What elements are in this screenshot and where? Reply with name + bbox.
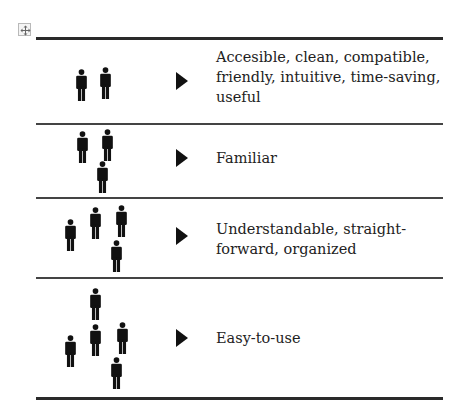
person-icon <box>89 207 102 239</box>
row-label: Easy-to-use <box>216 328 446 348</box>
people-group <box>36 279 176 397</box>
arrow-right-icon <box>176 72 188 90</box>
people-group <box>36 199 176 277</box>
person-icon <box>99 67 112 99</box>
person-icon <box>89 288 102 320</box>
person-icon <box>76 131 89 163</box>
person-icon <box>116 322 129 354</box>
person-icon <box>101 129 114 161</box>
person-icon <box>115 205 128 237</box>
move-arrows-icon <box>20 25 31 36</box>
row-label: Familiar <box>216 148 446 168</box>
person-icon <box>75 69 88 101</box>
people-group <box>36 40 176 123</box>
table-bottom-border <box>36 397 443 400</box>
arrow-right-icon <box>176 227 188 245</box>
table-row: Understandable, straight-forward, organi… <box>36 199 443 277</box>
arrow-right-icon <box>176 149 188 167</box>
person-icon <box>96 161 109 193</box>
table-row: Familiar <box>36 125 443 197</box>
person-icon <box>89 324 102 356</box>
person-icon <box>110 240 123 272</box>
table-move-handle[interactable] <box>18 23 31 36</box>
person-icon <box>110 357 123 389</box>
person-icon <box>64 219 77 251</box>
row-label: Accesible, clean, compatible, friendly, … <box>216 47 446 107</box>
person-icon <box>64 335 77 367</box>
people-group <box>36 125 176 197</box>
table-row: Easy-to-use <box>36 279 443 397</box>
row-label: Understandable, straight-forward, organi… <box>216 219 446 259</box>
arrow-right-icon <box>176 329 188 347</box>
table-row: Accesible, clean, compatible, friendly, … <box>36 40 443 123</box>
